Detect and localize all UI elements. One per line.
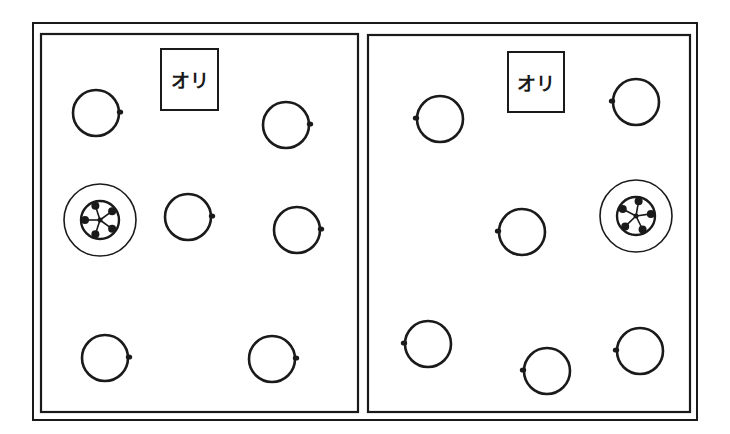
wheel-hub-icon [98, 218, 103, 223]
ring-left [274, 207, 320, 253]
knob-dot-icon [401, 340, 407, 345]
ring-left [263, 102, 309, 148]
ring-right [405, 321, 451, 367]
cage-label-right: オリ [507, 51, 565, 113]
ring-left [165, 194, 211, 240]
wheel-node-icon [647, 210, 655, 218]
wheel-node-icon [91, 202, 99, 210]
wheel-node-icon [619, 205, 627, 213]
ring-right [417, 96, 463, 142]
ring-right [613, 79, 659, 125]
ring-right [617, 328, 663, 374]
wheel-node-icon [81, 216, 89, 224]
knob-dot-icon [413, 115, 419, 120]
knob-dot-icon [520, 367, 526, 372]
wheel-node-icon [621, 222, 629, 230]
wheel-node-icon [108, 207, 116, 215]
knob-dot-icon [209, 213, 215, 218]
diagram-canvas: オリオリ [0, 0, 730, 434]
knob-dot-icon [126, 354, 132, 359]
wheel-node-icon [639, 225, 647, 233]
wheel-node-icon [91, 230, 99, 238]
knob-dot-icon [117, 109, 123, 114]
outer-frame [33, 23, 697, 420]
ring-right [524, 348, 570, 394]
ring-right [499, 209, 545, 255]
wheel-node-icon [635, 197, 643, 205]
knob-dot-icon [613, 347, 619, 352]
layout-drawing [0, 0, 730, 434]
wheel-node-icon [108, 225, 116, 233]
ring-left [73, 90, 119, 136]
cage-label-left: オリ [160, 48, 219, 111]
ring-left [82, 335, 128, 381]
knob-dot-icon [609, 98, 615, 103]
knob-dot-icon [307, 121, 313, 126]
ring-left [249, 336, 295, 382]
wheel-hub-icon [634, 214, 639, 219]
knob-dot-icon [293, 355, 299, 360]
knob-dot-icon [495, 228, 501, 233]
knob-dot-icon [318, 226, 324, 231]
